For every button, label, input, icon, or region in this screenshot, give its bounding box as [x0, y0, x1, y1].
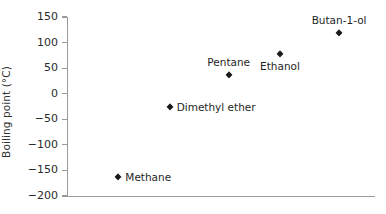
y-tick-label-text: 150: [4, 11, 58, 22]
y-tick-mark: [62, 68, 67, 69]
data-point-marker: [276, 50, 283, 57]
data-point-marker: [115, 173, 122, 180]
y-tick-label: −150: [0, 164, 58, 175]
y-tick-label: 0: [0, 88, 58, 99]
y-tick-label: 100: [0, 37, 58, 48]
data-point-label: Dimethyl ether: [177, 101, 256, 112]
y-tick-label: −200: [0, 190, 58, 201]
y-tick-mark: [62, 119, 67, 120]
y-tick-label-text: 100: [4, 37, 58, 48]
data-point-label: Pentane: [207, 57, 250, 68]
boiling-point-scatter-chart: Boiling point (°C) 150100500−50−100−150−…: [0, 0, 386, 214]
y-tick-mark: [62, 170, 67, 171]
data-point-marker: [335, 30, 342, 37]
x-axis-line: [67, 196, 375, 197]
data-point-marker: [166, 103, 173, 110]
y-tick-mark: [62, 42, 67, 43]
y-tick-mark: [62, 195, 67, 196]
y-tick-label-text: 50: [4, 62, 58, 73]
y-tick-label-text: −150: [4, 164, 58, 175]
data-point-label: Ethanol: [260, 61, 300, 72]
y-tick-label-text: −50: [4, 113, 58, 124]
y-tick-label-text: 0: [4, 88, 58, 99]
y-tick-mark: [62, 144, 67, 145]
y-tick-label-text: −100: [4, 139, 58, 150]
data-point-label: Methane: [125, 171, 171, 182]
y-tick-label: −50: [0, 113, 58, 124]
y-tick-label-text: −200: [4, 190, 58, 201]
y-tick-label: 50: [0, 62, 58, 73]
y-axis-line: [67, 17, 68, 197]
data-point-marker: [225, 72, 232, 79]
y-tick-label: 150: [0, 11, 58, 22]
y-tick-label: −100: [0, 139, 58, 150]
y-tick-mark: [62, 16, 67, 17]
data-point-label: Butan-1-ol: [312, 15, 367, 26]
y-tick-mark: [62, 93, 67, 94]
